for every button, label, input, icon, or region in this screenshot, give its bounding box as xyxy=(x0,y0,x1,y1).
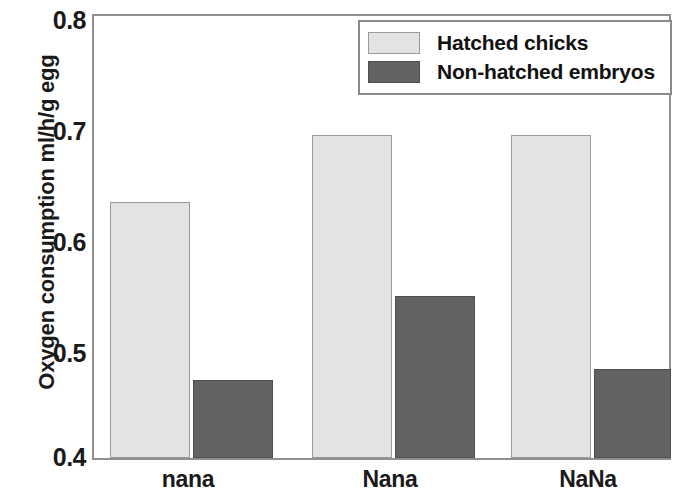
bar-Nana-non-hatched-embryos xyxy=(395,296,475,458)
x-tick-label-Nana: Nana xyxy=(320,466,460,493)
legend-swatch-hatched-chicks xyxy=(368,32,420,54)
bar-NaNa-hatched-chicks xyxy=(511,135,591,458)
legend-swatch-non-hatched-embryos xyxy=(368,61,420,83)
x-tick-label-NaNa: NaNa xyxy=(518,466,658,493)
legend: Hatched chicks Non-hatched embryos xyxy=(358,20,672,95)
legend-entry-non-hatched-embryos: Non-hatched embryos xyxy=(368,57,662,86)
bar-chart-figure: Oxygen consumption ml/h/g egg 0.8 0.7 0.… xyxy=(0,0,685,497)
legend-label-hatched-chicks: Hatched chicks xyxy=(437,31,588,55)
bar-nana-non-hatched-embryos xyxy=(193,380,273,458)
y-tick-label-0.6: 0.6 xyxy=(24,228,86,257)
bar-NaNa-non-hatched-embryos xyxy=(594,369,671,458)
legend-label-non-hatched-embryos: Non-hatched embryos xyxy=(437,60,655,84)
y-tick-label-0.5: 0.5 xyxy=(24,339,86,368)
y-tick-label-0.4: 0.4 xyxy=(24,443,86,472)
legend-entry-hatched-chicks: Hatched chicks xyxy=(368,28,662,57)
bar-nana-hatched-chicks xyxy=(110,202,190,458)
bar-Nana-hatched-chicks xyxy=(312,135,392,458)
x-tick-label-nana: nana xyxy=(118,466,258,493)
y-tick-label-0.8: 0.8 xyxy=(24,6,86,35)
y-axis-tick-labels: 0.8 0.7 0.6 0.5 0.4 xyxy=(10,0,86,497)
y-tick-label-0.7: 0.7 xyxy=(24,117,86,146)
